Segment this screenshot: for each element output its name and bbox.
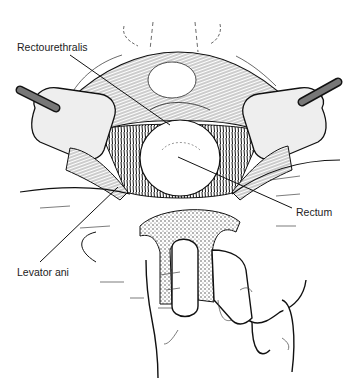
label-levator-ani: Levator ani: [17, 267, 69, 278]
right-retractor: [243, 82, 338, 160]
label-rectum: Rectum: [296, 207, 332, 218]
illustration-drawing: [0, 0, 359, 391]
surgical-illustration: Rectourethralis Rectum Levator ani: [0, 0, 359, 391]
label-rectourethralis: Rectourethralis: [17, 42, 88, 53]
left-retractor: [20, 88, 115, 160]
leader-levator-ani: [40, 187, 118, 262]
